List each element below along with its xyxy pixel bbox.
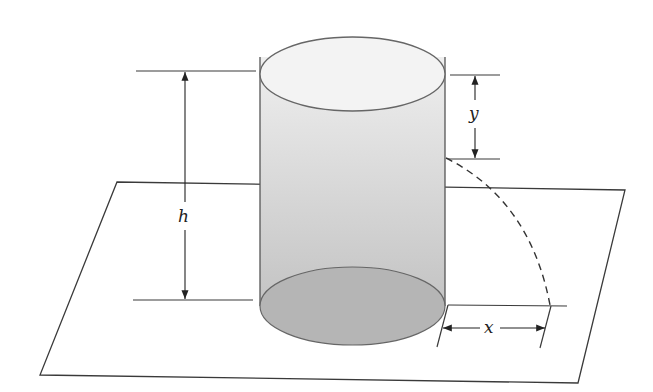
cylinder-plane-diagram: x h y (0, 0, 653, 392)
cylinder-base (260, 267, 445, 345)
diagram-canvas: x h y (0, 0, 653, 392)
drop-dimension: y (448, 75, 500, 159)
cylinder-top (260, 37, 445, 111)
h-label: h (178, 206, 189, 226)
cylinder (260, 37, 445, 345)
y-label: y (468, 103, 479, 123)
x-label: x (484, 317, 494, 337)
